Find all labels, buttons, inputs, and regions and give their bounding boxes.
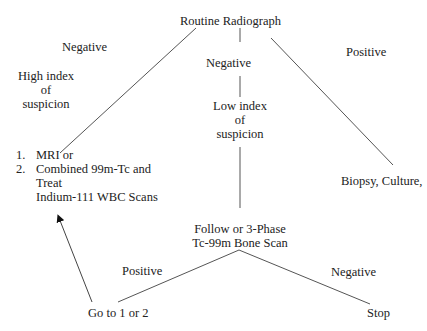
option-item-2: 2. Combined 99m-Tc and bbox=[16, 162, 158, 176]
option-item-2-cont-1: Treat bbox=[16, 176, 158, 190]
right-branch-label: Positive bbox=[346, 45, 386, 59]
bone-scan-line-2: Tc-99m Bone Scan bbox=[180, 236, 300, 250]
option-text: Indium-111 WBC Scans bbox=[36, 190, 158, 204]
left-condition-line-3: suspicion bbox=[16, 97, 76, 111]
option-number: 1. bbox=[16, 148, 36, 162]
bone-scan-positive-label: Positive bbox=[122, 264, 162, 278]
flowchart-canvas: Routine Radiograph Negative High index o… bbox=[0, 0, 427, 331]
bone-scan-node: Follow or 3-Phase Tc-99m Bone Scan bbox=[180, 222, 300, 250]
arrow-goto-options bbox=[59, 218, 92, 302]
bone-scan-negative-label: Negative bbox=[331, 265, 376, 279]
left-condition-line-2: of bbox=[16, 83, 76, 97]
middle-branch-label: Negative bbox=[206, 56, 251, 70]
middle-condition-line-2: of bbox=[208, 113, 272, 127]
left-branch-label: Negative bbox=[62, 40, 107, 54]
option-item-1: 1. MRI or bbox=[16, 148, 158, 162]
left-options-list: 1. MRI or 2. Combined 99m-Tc and Treat I… bbox=[16, 148, 158, 204]
biopsy-culture-node: Biopsy, Culture, bbox=[341, 174, 422, 188]
option-number: 2. bbox=[16, 162, 36, 176]
option-text: MRI or bbox=[36, 148, 73, 162]
bone-scan-line-1: Follow or 3-Phase bbox=[180, 222, 300, 236]
middle-condition: Low index of suspicion bbox=[208, 99, 272, 141]
middle-condition-line-1: Low index bbox=[208, 99, 272, 113]
root-node-routine-radiograph: Routine Radiograph bbox=[180, 14, 281, 28]
stop-node: Stop bbox=[367, 306, 390, 320]
left-condition-line-1: High index bbox=[16, 69, 76, 83]
option-item-2-cont-2: Indium-111 WBC Scans bbox=[16, 190, 158, 204]
goto-options-node: Go to 1 or 2 bbox=[88, 306, 148, 320]
middle-condition-line-3: suspicion bbox=[208, 127, 272, 141]
option-text: Combined 99m-Tc and bbox=[36, 162, 151, 176]
option-text: Treat bbox=[36, 176, 62, 190]
left-condition: High index of suspicion bbox=[16, 69, 76, 111]
